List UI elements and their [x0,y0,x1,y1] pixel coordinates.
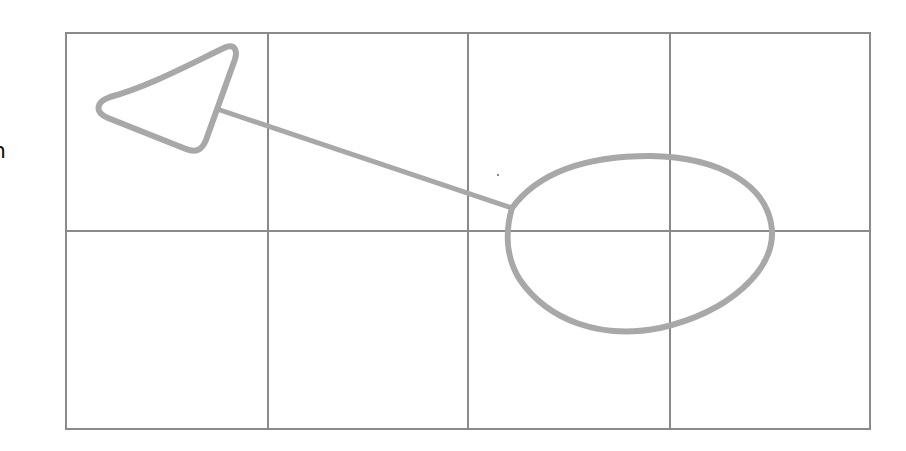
stray-dot [497,174,499,176]
triangle-shape [98,46,235,150]
diagram-canvas [0,0,906,451]
ellipse-shape [508,156,772,331]
grid [66,33,870,429]
sketch-shapes [98,46,772,331]
